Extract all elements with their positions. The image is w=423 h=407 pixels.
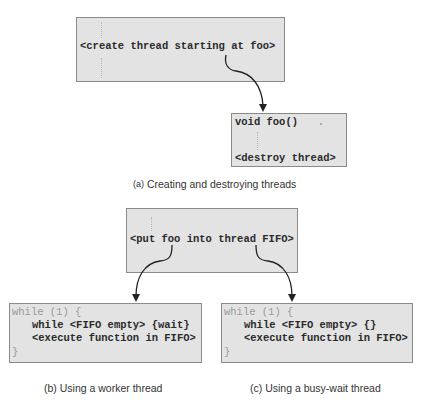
arrow-create-to-foo [225, 55, 267, 112]
arrow-fifo-to-worker [132, 245, 172, 302]
arrows-layer [0, 0, 423, 407]
arrow-fifo-to-busywait [256, 245, 296, 302]
